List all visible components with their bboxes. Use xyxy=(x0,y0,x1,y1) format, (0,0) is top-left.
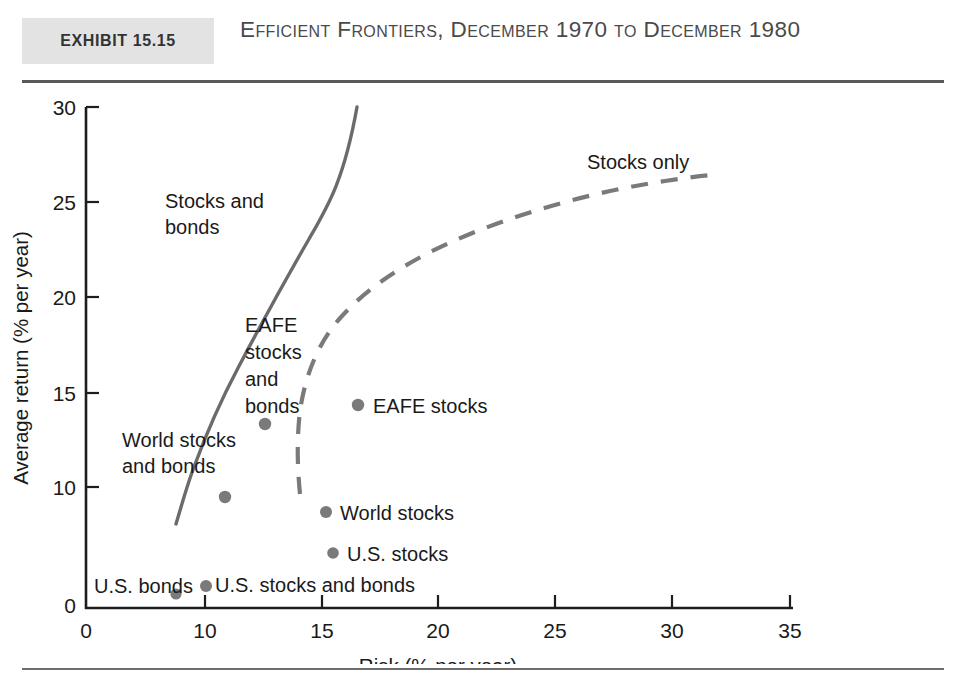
point-eafe-stocks-and-bonds xyxy=(259,418,271,430)
y-tick-label-10: 10 xyxy=(53,476,76,499)
annot-world-sb-line1: World stocks xyxy=(122,429,236,451)
exhibit-header: Exhibit 15.15 Efficient Frontiers, Decem… xyxy=(0,0,966,84)
annot-stocks-and-bonds-line1: Stocks and xyxy=(165,190,264,212)
x-tick-label-35: 35 xyxy=(778,619,801,642)
y-tick-label-30: 30 xyxy=(53,96,76,119)
y-tick-label-25: 25 xyxy=(53,191,76,214)
annotation-stocks-and-bonds: Stocks and bonds xyxy=(165,190,264,238)
header-rule xyxy=(22,80,944,83)
annot-us-bonds: U.S. bonds xyxy=(94,575,193,597)
point-world-stocks-and-bonds xyxy=(219,491,231,503)
y-axis-title: Average return (% per year) xyxy=(9,231,32,485)
y-tick-label-15: 15 xyxy=(53,382,76,405)
y-tick-label-20: 20 xyxy=(53,286,76,309)
x-tick-label-10: 10 xyxy=(193,619,216,642)
annot-eafe-sb-line4: bonds xyxy=(245,395,300,417)
point-eafe-stocks xyxy=(352,399,364,411)
x-tick-label-30: 30 xyxy=(660,619,683,642)
curve-stocks-only xyxy=(298,175,712,494)
x-tick-label-25: 25 xyxy=(543,619,566,642)
annot-us-stocks-and-bonds: U.S. stocks and bonds xyxy=(215,574,415,596)
annot-eafe-sb-line2: stocks xyxy=(245,341,302,363)
annot-stocks-only: Stocks only xyxy=(587,151,689,173)
x-tick-label-0: 0 xyxy=(80,619,92,642)
exhibit-page: Exhibit 15.15 Efficient Frontiers, Decem… xyxy=(0,0,966,692)
x-axis-title: Risk (% per year) xyxy=(359,654,517,664)
exhibit-title: Efficient Frontiers, December 1970 to De… xyxy=(240,14,920,45)
efficient-frontier-chart: 30 25 20 15 10 0 0 10 15 20 25 30 35 R xyxy=(0,84,966,664)
x-axis-ticks xyxy=(205,595,790,608)
annot-us-stocks: U.S. stocks xyxy=(347,543,448,565)
chart-area: 30 25 20 15 10 0 0 10 15 20 25 30 35 R xyxy=(0,84,966,664)
annot-world-sb-line2: and bonds xyxy=(122,455,215,477)
point-us-stocks xyxy=(327,547,339,559)
y-axis-ticks xyxy=(86,107,99,487)
annot-stocks-and-bonds-line2: bonds xyxy=(165,216,220,238)
point-us-stocks-and-bonds xyxy=(200,580,212,592)
annot-eafe-stocks: EAFE stocks xyxy=(373,395,487,417)
exhibit-number-badge: Exhibit 15.15 xyxy=(22,18,214,64)
annot-eafe-sb-line1: EAFE xyxy=(245,314,297,336)
annot-world-stocks: World stocks xyxy=(340,502,454,524)
annotation-world-stocks-and-bonds: World stocks and bonds xyxy=(122,429,236,477)
footer-rule xyxy=(22,668,944,670)
x-tick-label-20: 20 xyxy=(426,619,449,642)
x-tick-label-15: 15 xyxy=(310,619,333,642)
annot-eafe-sb-line3: and xyxy=(245,368,278,390)
exhibit-number-label: Exhibit 15.15 xyxy=(60,32,175,50)
annotation-eafe-stocks-and-bonds: EAFE stocks and bonds xyxy=(245,314,302,417)
axis-lines xyxy=(86,107,793,608)
y-tick-label-0: 0 xyxy=(64,594,76,617)
point-world-stocks xyxy=(320,506,332,518)
